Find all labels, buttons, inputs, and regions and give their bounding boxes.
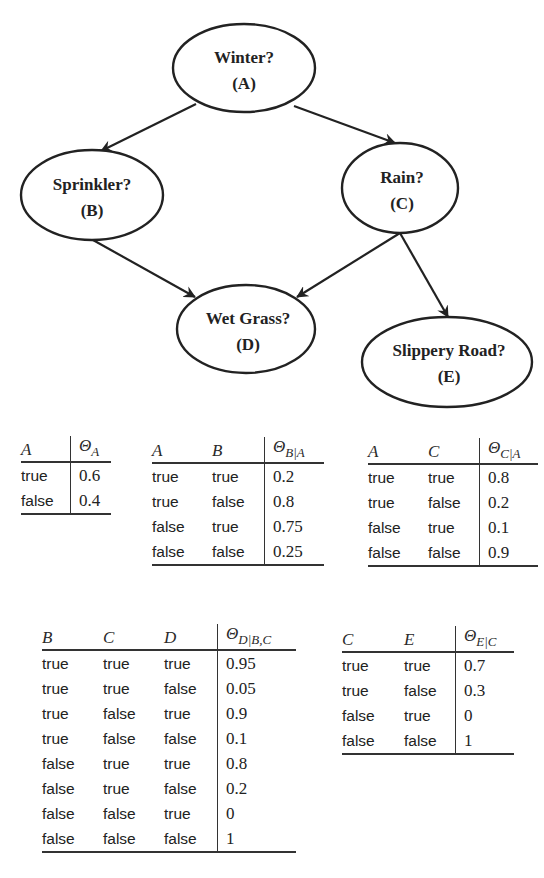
- table-cell: false: [103, 701, 164, 726]
- probability-value: 0.25: [265, 539, 325, 565]
- column-header: C: [428, 438, 480, 464]
- table-row: true true 0.2: [152, 463, 324, 489]
- cpt-theta-b-given-a: A B ΘB|A true true 0.2 true false 0.8 fa…: [152, 437, 324, 566]
- table-cell: true: [212, 463, 265, 489]
- table-row: true false true 0.9: [42, 701, 296, 726]
- table-cell: true: [21, 462, 71, 488]
- probability-value: 0.75: [265, 514, 325, 539]
- table-row: false false 1: [342, 728, 514, 754]
- node-variable: (C): [390, 194, 414, 213]
- column-header: B: [42, 624, 103, 650]
- column-header: A: [368, 438, 428, 464]
- table-row: true true 0.7: [342, 652, 514, 678]
- probability-value: 1: [218, 826, 297, 852]
- column-header: A: [21, 436, 71, 462]
- probability-value: 0.2: [218, 776, 297, 801]
- parameter-header: ΘE|C: [456, 626, 515, 652]
- table-cell: false: [164, 776, 218, 801]
- table-cell: true: [103, 676, 164, 701]
- table-row: false false true 0: [42, 801, 296, 826]
- node-variable: (D): [236, 335, 260, 354]
- table-cell: false: [42, 826, 103, 852]
- table-cell: true: [428, 515, 480, 540]
- table-cell: true: [164, 650, 218, 676]
- probability-value: 0.1: [480, 515, 539, 540]
- table-cell: true: [164, 751, 218, 776]
- edge-a-to-b: [101, 104, 196, 151]
- table-row: true true 0.8: [368, 464, 538, 490]
- probability-value: 0.4: [71, 488, 112, 514]
- node-label: Sprinkler?: [53, 175, 131, 194]
- column-header: D: [164, 624, 218, 650]
- table-cell: true: [404, 703, 456, 728]
- node-label: Rain?: [380, 168, 423, 187]
- table-cell: false: [342, 703, 404, 728]
- table-cell: true: [42, 726, 103, 751]
- node-variable: (B): [81, 201, 104, 220]
- table-cell: false: [428, 540, 480, 566]
- table-cell: false: [103, 826, 164, 852]
- node-label: Slippery Road?: [393, 341, 506, 360]
- probability-value: 0: [456, 703, 515, 728]
- parameter-header: ΘD|B,C: [218, 624, 297, 650]
- node-sprinkler: Sprinkler? (B): [21, 150, 163, 240]
- node-label: Winter?: [214, 48, 274, 67]
- table-cell: true: [103, 650, 164, 676]
- table-cell: true: [164, 701, 218, 726]
- table-row: false true 0.1: [368, 515, 538, 540]
- table-cell: false: [212, 539, 265, 565]
- table-cell: true: [152, 463, 212, 489]
- probability-value: 0: [218, 801, 297, 826]
- edge-c-to-d: [297, 233, 400, 297]
- probability-value: 0.95: [218, 650, 297, 676]
- parameter-header: ΘA: [71, 436, 112, 462]
- table-cell: false: [368, 515, 428, 540]
- table-cell: true: [342, 678, 404, 703]
- table-cell: true: [342, 652, 404, 678]
- table-row: false true 0.75: [152, 514, 324, 539]
- table-cell: false: [404, 728, 456, 754]
- probability-value: 0.8: [218, 751, 297, 776]
- table-cell: true: [103, 751, 164, 776]
- table-cell: false: [164, 826, 218, 852]
- probability-value: 0.1: [218, 726, 297, 751]
- table-row: false 0.4: [21, 488, 111, 514]
- probability-value: 0.2: [265, 463, 325, 489]
- table-cell: false: [152, 514, 212, 539]
- probability-value: 0.9: [218, 701, 297, 726]
- table-cell: true: [42, 701, 103, 726]
- table-cell: false: [404, 678, 456, 703]
- node-variable: (E): [438, 367, 461, 386]
- table-cell: true: [368, 490, 428, 515]
- node-variable: (A): [232, 74, 256, 93]
- table-cell: true: [368, 464, 428, 490]
- probability-value: 0.6: [71, 462, 112, 488]
- table-cell: false: [164, 726, 218, 751]
- parameter-header: ΘB|A: [265, 437, 325, 463]
- table-cell: true: [212, 514, 265, 539]
- edge-a-to-c: [294, 106, 395, 143]
- probability-value: 0.2: [480, 490, 539, 515]
- cpt-theta-e-given-c: C E ΘE|C true true 0.7 true false 0.3 fa…: [342, 626, 514, 755]
- probability-value: 0.8: [480, 464, 539, 490]
- table-row: false false 0.9: [368, 540, 538, 566]
- node-label: Wet Grass?: [206, 309, 291, 328]
- node-winter: Winter? (A): [173, 24, 315, 112]
- table-cell: false: [342, 728, 404, 754]
- table-row: true false 0.8: [152, 489, 324, 514]
- table-cell: false: [212, 489, 265, 514]
- column-header: C: [342, 626, 404, 652]
- cpt-theta-c-given-a: A C ΘC|A true true 0.8 true false 0.2 fa…: [368, 438, 538, 567]
- table-cell: true: [404, 652, 456, 678]
- probability-value: 0.05: [218, 676, 297, 701]
- table-cell: false: [42, 751, 103, 776]
- table-row: false false false 1: [42, 826, 296, 852]
- node-slippery-road: Slippery Road? (E): [362, 317, 532, 407]
- column-header: B: [212, 437, 265, 463]
- table-cell: false: [164, 676, 218, 701]
- probability-value: 0.7: [456, 652, 515, 678]
- table-cell: true: [103, 776, 164, 801]
- table-row: true false 0.2: [368, 490, 538, 515]
- table-cell: true: [428, 464, 480, 490]
- table-cell: true: [42, 676, 103, 701]
